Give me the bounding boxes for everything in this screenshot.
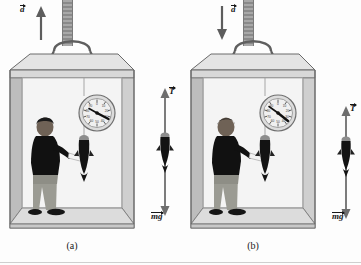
svg-text:50: 50 (95, 120, 99, 124)
spring-scale-dial-b: 0 10 20 30 40 50 60 70 80 90 (259, 94, 297, 136)
tension-label-a: T (169, 86, 175, 96)
caption-a: (a) (42, 240, 102, 251)
acceleration-label-b: a (231, 4, 236, 14)
panel-b: a (181, 0, 361, 265)
svg-text:70: 70 (267, 115, 271, 119)
svg-text:70: 70 (86, 115, 90, 119)
tension-label-b: T (350, 103, 356, 113)
svg-text:60: 60 (271, 119, 275, 123)
weight-label-b: mg (332, 211, 344, 221)
caption-b: (b) (223, 240, 283, 251)
acceleration-label-a: a (20, 4, 25, 14)
svg-text:50: 50 (276, 120, 280, 124)
svg-text:60: 60 (90, 119, 94, 123)
spring-scale-dial-a: 0 10 20 30 40 50 60 70 80 90 (78, 94, 116, 136)
svg-text:80: 80 (267, 109, 271, 113)
svg-text:80: 80 (86, 109, 90, 113)
svg-text:20: 20 (286, 109, 290, 113)
free-body-diagram-b (331, 104, 361, 228)
svg-text:20: 20 (105, 109, 109, 113)
elevator-box-b (187, 32, 319, 237)
bottom-divider (0, 262, 361, 263)
svg-text:0: 0 (96, 102, 98, 106)
free-body-diagram-a (150, 86, 180, 225)
svg-text:10: 10 (102, 104, 106, 108)
svg-text:0: 0 (277, 102, 279, 106)
svg-text:10: 10 (283, 104, 287, 108)
panel-a: a (0, 0, 180, 265)
svg-text:40: 40 (101, 119, 105, 123)
svg-text:90: 90 (89, 104, 93, 108)
elevator-box-a (6, 32, 138, 237)
weight-label-a: mg (151, 211, 163, 221)
